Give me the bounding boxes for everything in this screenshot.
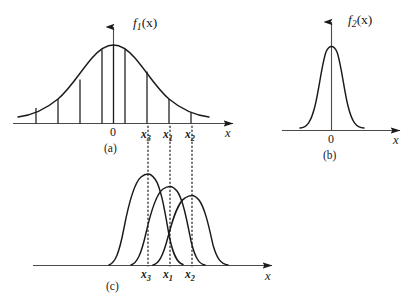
figure-root: f1(x) 0 x x3 x1 x2 (a) f2(x) 0 x (b) x3 … — [0, 0, 417, 299]
panel-c — [33, 174, 272, 266]
panel-c-tick-x2: x2 — [185, 269, 195, 283]
panel-a — [13, 27, 233, 124]
panel-c-tick-x1: x1 — [163, 269, 173, 283]
panel-b — [282, 22, 400, 131]
panel-a-tick-x1: x1 — [163, 129, 173, 143]
panel-a-x-axis-label: x — [225, 127, 231, 140]
panel-a-tick-x3-sub: 3 — [147, 134, 151, 143]
panel-b-caption: (b) — [323, 150, 336, 162]
panel-c-tick-x3: x3 — [141, 269, 151, 283]
panel-c-tick-x3-sub: 3 — [147, 274, 151, 283]
dotted-connectors — [148, 126, 192, 266]
panel-b-y-axis-label: f2(x) — [348, 13, 372, 29]
panel-c-tick-x1-sub: 1 — [169, 274, 173, 283]
panel-b-fn-arg: (x) — [357, 12, 373, 27]
panel-a-origin-label: 0 — [110, 126, 116, 138]
panel-b-x-axis-label: x — [393, 134, 399, 147]
figure-svg — [0, 0, 417, 299]
panel-a-tick-x2-sub: 2 — [191, 134, 195, 143]
panel-a-tick-x1-sub: 1 — [169, 134, 173, 143]
panel-c-tick-x2-sub: 2 — [191, 274, 195, 283]
panel-c-x-axis-label: x — [265, 270, 271, 283]
panel-a-tick-x2: x2 — [185, 129, 195, 143]
panel-c-caption: (c) — [106, 281, 119, 293]
panel-b-origin-label: 0 — [328, 133, 334, 145]
panel-a-tick-x3: x3 — [141, 129, 151, 143]
panel-a-y-axis-label: f1(x) — [133, 16, 157, 32]
panel-a-caption: (a) — [104, 143, 117, 155]
panel-a-stems — [36, 45, 191, 124]
panel-a-fn-arg: (x) — [142, 15, 158, 30]
